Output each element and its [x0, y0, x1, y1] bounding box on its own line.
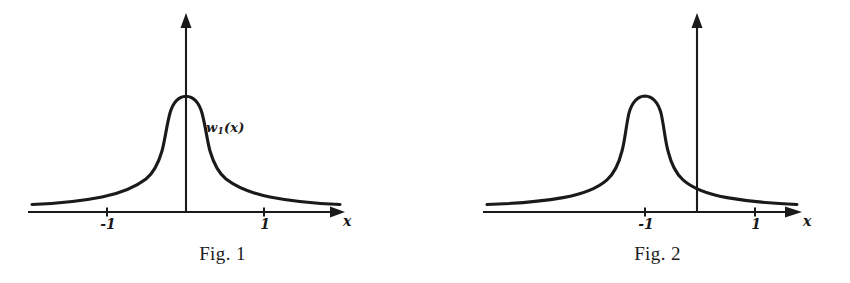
figure-2-x-axis-label: x: [803, 213, 811, 229]
figure-2-y-axis: [692, 13, 703, 212]
figure-1-tick-label-minus-one: -1: [95, 216, 121, 232]
figure-2-tick-label-one: 1: [746, 216, 766, 232]
figure-1-function-label: w1(x): [206, 120, 245, 136]
figure-2-tick-label-minus-one: -1: [633, 216, 659, 232]
figure-1-panel: w1(x) -1 1 x Fig. 1: [0, 0, 425, 283]
figure-1-y-axis: [181, 13, 192, 212]
figure-1-tick-label-one: 1: [255, 216, 275, 232]
figure-1-caption: Fig. 1: [0, 243, 435, 265]
figure-2-caption: Fig. 2: [425, 243, 850, 265]
figure-2-panel: w1(x + 1) -1 1 x Fig. 2: [425, 0, 850, 283]
figure-2-plot: [425, 0, 850, 250]
figure-1-function-label-main: w: [206, 120, 217, 135]
figure-1-function-label-tail: (x): [224, 120, 245, 135]
figure-1-x-axis-label: x: [343, 213, 351, 229]
figure-2-curve: [487, 96, 797, 205]
figure-sheet: w1(x) -1 1 x Fig. 1: [0, 0, 850, 283]
